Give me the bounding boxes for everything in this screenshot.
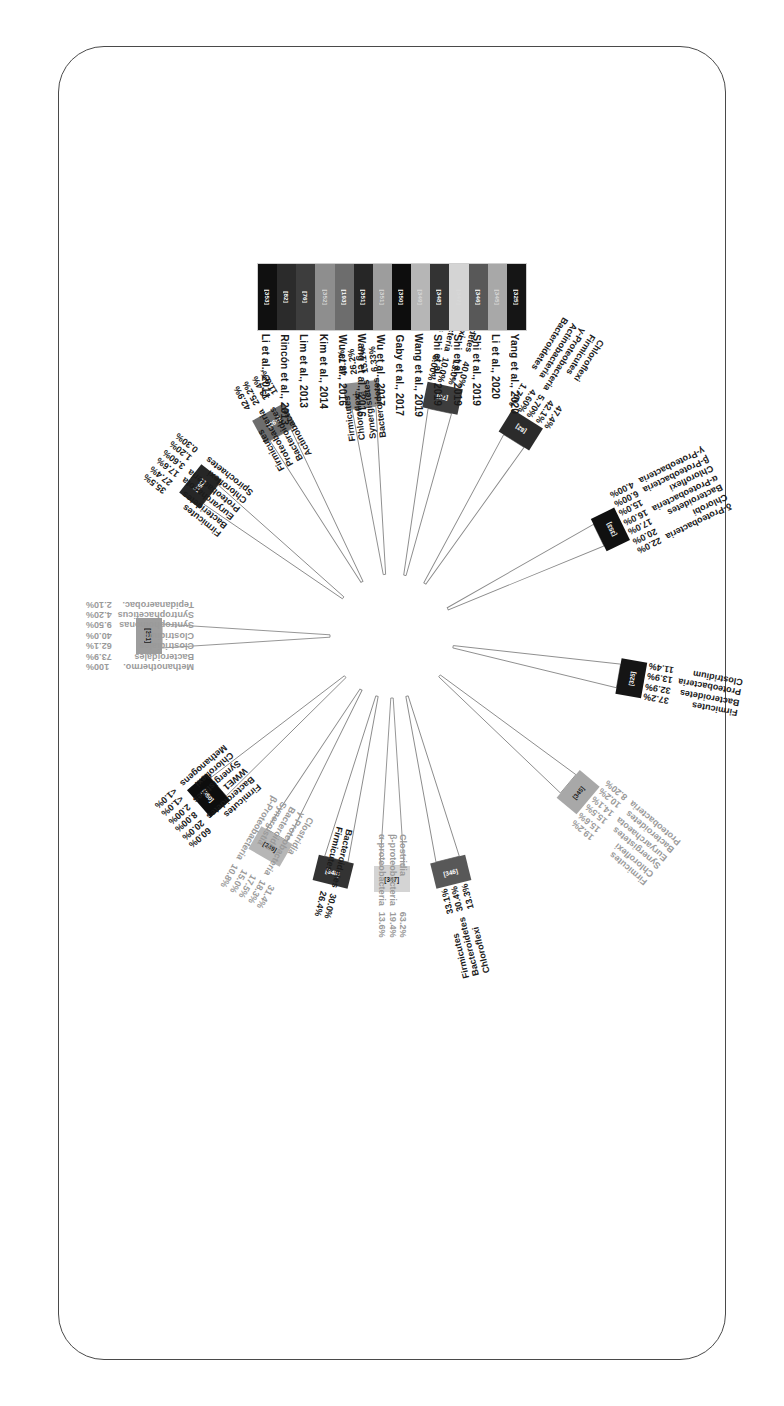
- taxon-row: Clostridia63.2%: [397, 834, 407, 938]
- legend-ref-number: [350]: [398, 289, 405, 304]
- legend: Yang et al., 2020Li et al., 2020Shi et a…: [258, 264, 526, 330]
- legend-swatch: [348]: [430, 264, 449, 330]
- figure-rotated-canvas: [346]Firmicutes33.1%Bacteroidetes30.4%Ch…: [0, 0, 784, 1406]
- legend-citation: Li et al., 2011: [256, 334, 275, 562]
- legend-citation-list: Yang et al., 2020Li et al., 2020Shi et a…: [256, 334, 524, 562]
- legend-citation: Wu et al., 2016: [333, 334, 352, 562]
- legend-swatch: [82]: [277, 264, 296, 330]
- legend-swatch: [351]: [373, 264, 392, 330]
- taxon-name: Clostridiales: [112, 641, 194, 651]
- taxon-value: 40.0%: [86, 631, 112, 641]
- taxon-name: Clostridia: [397, 834, 407, 912]
- legend-citation: Wang et al., 2019: [409, 334, 428, 562]
- taxon-name: Methanothermo.: [112, 662, 194, 672]
- legend-ref-number: [345]: [494, 289, 501, 304]
- legend-citation: Rincón et al., 2013: [275, 334, 294, 562]
- legend-swatch: [353]: [258, 264, 277, 330]
- taxon-row: Bacteroidales73.9%: [86, 652, 194, 662]
- radial-wedge-chart: [346]Firmicutes33.1%Bacteroidetes30.4%Ch…: [0, 0, 784, 1406]
- wedge-taxa-labels: Firmicutes37.2%Bacteroidetes32.9%Proteob…: [642, 660, 743, 718]
- legend-swatch: [193]: [335, 264, 354, 330]
- legend-swatch: [345]: [488, 264, 507, 330]
- legend-ref-number: [82]: [283, 291, 290, 303]
- wedge-ref-number: [346]: [443, 867, 459, 877]
- legend-swatch: [349]: [411, 264, 430, 330]
- legend-ref-number: [325]: [513, 289, 520, 304]
- legend-swatch: [347]: [449, 264, 468, 330]
- legend-swatch: [325]: [507, 264, 526, 330]
- legend-ref-number: [348]: [436, 289, 443, 304]
- wedge-ref-number: [353]: [604, 521, 617, 537]
- legend-citation: Shi et al., 2019: [428, 334, 447, 562]
- taxon-value: 9.50%: [86, 620, 112, 630]
- taxon-row: β-proteobacteria19.4%: [387, 834, 397, 938]
- legend-ref-number: [351]: [360, 289, 367, 304]
- legend-ref-number: [347]: [456, 289, 463, 304]
- taxon-value: 4.20%: [86, 610, 112, 620]
- legend-citation: Lim et al., 2013: [294, 334, 313, 562]
- taxon-row: Clostridium40.0%: [86, 631, 194, 641]
- taxon-name: Tepidanaerobac.: [112, 600, 194, 610]
- legend-citation: Shi et al., 2019: [467, 334, 486, 562]
- legend-citation: Li et al., 2020: [486, 334, 505, 562]
- taxon-value: 2.10%: [86, 600, 112, 610]
- taxon-name: Syntrophomonas: [112, 620, 194, 630]
- wedge-body: [451, 635, 621, 688]
- taxon-name: Bacteroidales: [112, 652, 194, 662]
- taxon-value: 100%: [86, 662, 112, 672]
- wedge-body: [432, 667, 576, 793]
- legend-swatch: [350]: [392, 264, 411, 330]
- legend-citation: Wu et al., 2017: [371, 334, 390, 562]
- taxon-name: Clostridium: [112, 631, 194, 641]
- legend-citation: Yang et al., 2020: [505, 334, 524, 562]
- wedge-ref-number: [325]: [627, 670, 636, 686]
- legend-swatch: [351]: [354, 264, 373, 330]
- legend-ref-number: [349]: [417, 289, 424, 304]
- wedge-taxa-labels: Clostridia63.2%β-proteobacteria19.4%α-pr…: [376, 834, 407, 938]
- taxon-row: α-proteobacteria13.6%: [376, 834, 386, 938]
- taxon-row: Syntrophomonas9.50%: [86, 620, 194, 630]
- taxon-name: α-proteobacteria: [376, 834, 386, 912]
- wedge-taxa-labels: Firmicutes33.1%Bacteroidetes30.4%Chlorof…: [439, 883, 492, 980]
- taxon-value: 19.4%: [387, 912, 397, 938]
- legend-swatch: [352]: [315, 264, 334, 330]
- taxon-row: Methanothermo.100%: [86, 662, 194, 672]
- legend-ref-number: [351]: [379, 289, 386, 304]
- legend-citation: Shi et al., 2019: [447, 334, 466, 562]
- legend-ref-number: [353]: [264, 289, 271, 304]
- legend-swatch-row: [325][345][346][347][348][349][350][351]…: [258, 264, 526, 330]
- taxon-row: Tepidanaerobac.2.10%: [86, 600, 194, 610]
- taxon-name: Syntrophaceticus: [112, 610, 194, 620]
- legend-ref-number: [76]: [302, 291, 309, 303]
- taxon-row: Syntrophaceticus4.20%: [86, 610, 194, 620]
- taxon-value: 63.2%: [397, 912, 407, 938]
- legend-ref-number: [346]: [475, 289, 482, 304]
- taxon-value: 62.1%: [86, 641, 112, 651]
- wedge-taxa-labels: Methanothermo.100%Bacteroidales73.9%Clos…: [86, 600, 194, 673]
- legend-citation: Kim et al., 2014: [313, 334, 332, 562]
- taxon-row: Clostridiales62.1%: [86, 641, 194, 651]
- legend-citation: Gaby et al., 2017: [390, 334, 409, 562]
- taxon-value: 73.9%: [86, 652, 112, 662]
- legend-swatch: [346]: [469, 264, 488, 330]
- wedge-cap-bar[interactable]: [325]: [615, 658, 647, 698]
- legend-ref-number: [352]: [322, 289, 329, 304]
- taxon-value: 13.6%: [376, 912, 386, 938]
- legend-citation: Wang et al., 2016: [352, 334, 371, 562]
- legend-ref-number: [193]: [341, 289, 348, 304]
- legend-swatch: [76]: [296, 264, 315, 330]
- wedge-ref-number: [345]: [571, 784, 586, 800]
- taxon-name: β-proteobacteria: [387, 834, 397, 912]
